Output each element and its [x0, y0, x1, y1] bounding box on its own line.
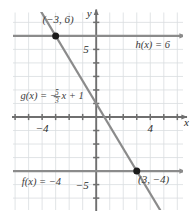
function-label-suffix: x + 1: [61, 90, 84, 101]
function-label-f: f(x) = −4: [22, 176, 62, 188]
x-axis-label: x: [183, 116, 189, 128]
point-label: (3, −4): [138, 173, 170, 186]
fraction-denominator: 3: [54, 96, 59, 105]
point-label: (−3, 6): [43, 13, 75, 26]
x-tick-label: −4: [36, 122, 49, 134]
function-lines: [0, 0, 196, 220]
data-point: [52, 32, 59, 39]
function-label-g: g(x) = −: [20, 90, 56, 102]
x-tick-label: 4: [148, 122, 154, 134]
graph-figure: (−3, 6)(3, −4)h(x) = 6g(x) = −53x + 1f(x…: [0, 0, 196, 220]
y-tick-label: −5: [76, 179, 89, 191]
function-line-g: [0, 0, 196, 220]
y-tick-label: 5: [83, 43, 89, 55]
y-axis-label: y: [86, 7, 92, 19]
function-label-h: h(x) = 6: [135, 39, 170, 51]
coordinate-plane: (−3, 6)(3, −4)h(x) = 6g(x) = −53x + 1f(x…: [0, 0, 196, 220]
